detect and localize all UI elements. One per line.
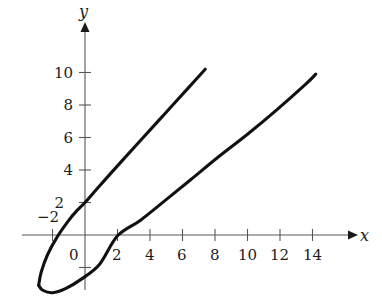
x-tick-label-2: 2 [112, 246, 122, 264]
x-tick-label-8: 8 [210, 246, 220, 264]
y-axis [79, 22, 91, 290]
y-axis-arrowhead [81, 22, 90, 32]
plot-figure: −2 0 2 4 6 8 10 12 14 2 4 6 8 10 x y [0, 0, 382, 306]
parabola-plot-svg: −2 0 2 4 6 8 10 12 14 2 4 6 8 10 x y [0, 0, 382, 306]
x-tick-label-4: 4 [145, 246, 155, 264]
y-tick-label-6: 6 [63, 129, 73, 147]
x-tick-label-14: 14 [303, 246, 322, 264]
y-tick-label-10: 10 [54, 64, 73, 82]
y-tick-labels: 2 4 6 8 10 [54, 64, 73, 212]
x-tick-label-10: 10 [238, 246, 257, 264]
x-tick-label-6: 6 [177, 246, 187, 264]
y-tick-label-8: 8 [63, 96, 73, 114]
y-tick-label-4: 4 [63, 161, 73, 179]
x-tick-label-0: 0 [69, 246, 79, 264]
x-axis-arrowhead [348, 231, 358, 240]
x-tick-labels: −2 0 2 4 6 8 10 12 14 [37, 208, 322, 264]
x-axis-label: x [360, 226, 369, 245]
y-axis-label: y [78, 2, 89, 21]
x-axis [22, 229, 358, 241]
x-tick-label-12: 12 [270, 246, 289, 264]
y-tick-label-2: 2 [54, 194, 64, 212]
